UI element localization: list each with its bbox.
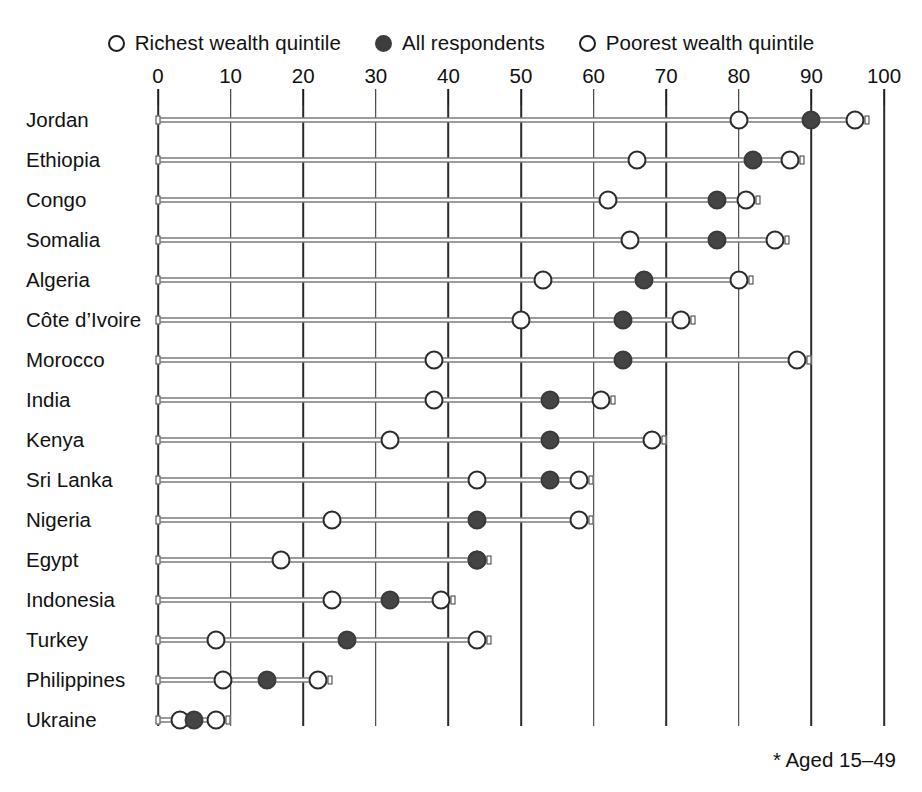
row-line-end-cap: [327, 676, 332, 685]
row-line-end-cap: [806, 356, 811, 365]
row-line-end-cap: [589, 516, 594, 525]
data-point-marker: [729, 271, 748, 290]
data-point-marker: [323, 591, 342, 610]
data-point-marker: [744, 151, 763, 170]
data-point-marker: [613, 311, 632, 330]
x-axis-tick-label: 40: [437, 64, 460, 88]
category-row-line: [158, 118, 867, 123]
row-line-start-cap: [156, 396, 161, 405]
data-point-marker: [570, 511, 589, 530]
data-point-marker: [185, 711, 204, 730]
chart-footnote: * Aged 15–49: [773, 748, 896, 772]
x-axis-tick-label: 0: [152, 64, 163, 88]
row-line-end-cap: [799, 156, 804, 165]
x-axis-tick-mark: [593, 89, 595, 105]
gridline: [883, 105, 885, 726]
data-point-marker: [257, 671, 276, 690]
x-axis-tick-label: 90: [800, 64, 823, 88]
data-point-marker: [207, 631, 226, 650]
row-line-start-cap: [156, 276, 161, 285]
y-axis-category-label: Turkey: [26, 628, 88, 652]
category-row-line: [158, 598, 453, 603]
row-line-start-cap: [156, 556, 161, 565]
data-point-marker: [737, 191, 756, 210]
x-axis-tick-mark: [738, 89, 740, 105]
data-point-marker: [468, 511, 487, 530]
x-axis-tick-mark: [811, 89, 813, 105]
data-point-marker: [708, 191, 727, 210]
row-line-start-cap: [156, 236, 161, 245]
category-row-line: [158, 678, 330, 683]
row-line-start-cap: [156, 156, 161, 165]
row-line-end-cap: [785, 236, 790, 245]
data-point-marker: [787, 351, 806, 370]
row-line-start-cap: [156, 516, 161, 525]
row-line-end-cap: [756, 196, 761, 205]
x-axis-tick-label: 30: [364, 64, 387, 88]
data-point-marker: [272, 551, 291, 570]
x-axis-tick-label: 20: [292, 64, 315, 88]
category-row-line: [158, 358, 809, 363]
x-axis-tick-mark: [448, 89, 450, 105]
data-point-marker: [541, 431, 560, 450]
category-row-line: [158, 158, 802, 163]
x-axis-tick-label: 10: [219, 64, 242, 88]
y-axis-category-label: Philippines: [26, 668, 125, 692]
x-axis-tick-mark: [665, 89, 667, 105]
data-point-marker: [541, 471, 560, 490]
data-point-marker: [323, 511, 342, 530]
y-axis-category-label: Morocco: [26, 348, 105, 372]
data-point-marker: [613, 351, 632, 370]
x-axis-tick-label: 80: [727, 64, 750, 88]
data-point-marker: [424, 391, 443, 410]
data-point-marker: [381, 431, 400, 450]
row-line-end-cap: [748, 276, 753, 285]
y-axis-category-label: Egypt: [26, 548, 78, 572]
data-point-marker: [541, 391, 560, 410]
row-line-end-cap: [661, 436, 666, 445]
data-point-marker: [207, 711, 226, 730]
y-axis-category-label: Algeria: [26, 268, 90, 292]
data-point-marker: [381, 591, 400, 610]
data-point-marker: [468, 551, 487, 570]
data-point-marker: [570, 471, 589, 490]
data-point-marker: [512, 311, 531, 330]
row-line-end-cap: [610, 396, 615, 405]
row-line-start-cap: [156, 636, 161, 645]
row-line-start-cap: [156, 316, 161, 325]
x-axis-tick-mark: [375, 89, 377, 105]
x-axis-tick-mark: [230, 89, 232, 105]
row-line-start-cap: [156, 676, 161, 685]
x-axis-tick-label: 50: [510, 64, 533, 88]
data-point-marker: [337, 631, 356, 650]
category-row-line: [158, 558, 489, 563]
row-line-start-cap: [156, 196, 161, 205]
x-axis-tick-label: 60: [582, 64, 605, 88]
data-point-marker: [424, 351, 443, 370]
data-point-marker: [599, 191, 618, 210]
data-point-marker: [620, 231, 639, 250]
y-axis-category-label: Indonesia: [26, 588, 115, 612]
category-row-line: [158, 198, 758, 203]
data-point-marker: [214, 671, 233, 690]
y-axis-category-label: Côte d’Ivoire: [26, 308, 141, 332]
category-row-line: [158, 238, 787, 243]
category-row-line: [158, 478, 591, 483]
y-axis-category-label: Ethiopia: [26, 148, 100, 172]
row-line-end-cap: [487, 556, 492, 565]
y-axis-category-label: Jordan: [26, 108, 89, 132]
row-line-start-cap: [156, 476, 161, 485]
row-line-start-cap: [156, 716, 161, 725]
data-point-marker: [708, 231, 727, 250]
data-point-marker: [432, 591, 451, 610]
data-point-marker: [635, 271, 654, 290]
row-line-start-cap: [156, 436, 161, 445]
row-line-start-cap: [156, 596, 161, 605]
x-axis-tick-label: 100: [867, 64, 901, 88]
y-axis-category-label: Ukraine: [26, 708, 97, 732]
y-axis-category-label: Somalia: [26, 228, 100, 252]
y-axis-category-label: Nigeria: [26, 508, 91, 532]
row-line-end-cap: [589, 476, 594, 485]
data-point-marker: [628, 151, 647, 170]
row-line-end-cap: [487, 636, 492, 645]
